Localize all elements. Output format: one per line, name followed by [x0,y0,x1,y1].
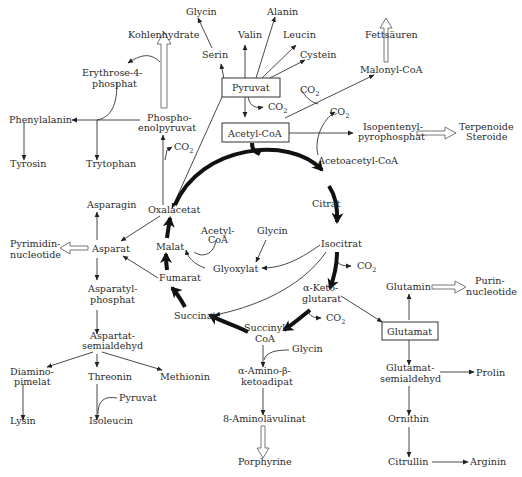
label-glutamat-semi-1: Glutamat- [386,362,434,373]
label-pyruvat: Pyruvat [232,82,270,93]
label-pyrimidin-1: Pyrimidin- [10,238,60,249]
label-methionin: Methionin [160,371,210,382]
label-isopentenyl-2: pyrophosphat [358,131,425,142]
label-valin: Valin [237,29,262,40]
label-asparatyl-1: Asparatyl- [87,283,138,294]
label-co2-isopent: CO2 [330,106,349,120]
label-isoleucin: Isoleucin [89,415,133,426]
label-glutamat: Glutamat [387,326,432,337]
label-tyrosin: Tyrosin [10,158,46,169]
metabolic-pathway-diagram: Glycin Alanin Valin Leucin Serin Cystein… [0,0,522,477]
label-pyrimidin-2: nucleotide [10,249,61,260]
label-asparagin: Asparagin [86,199,136,210]
label-asparatyl-2: phosphat [90,294,135,305]
label-glycin-low: Glycin [292,343,323,354]
label-threonin: Threonin [88,371,132,382]
label-pyruvat-small: Pyruvat [119,392,157,403]
label-leucin: Leucin [283,29,316,40]
label-asparat: Asparat [91,243,130,254]
label-acetyl-coa: Acetyl-CoA [227,128,283,139]
label-citrat: Citrat [312,198,341,209]
label-co2-isocitrat: CO2 [357,260,376,274]
label-glyoxylat: Glyoxylat [213,263,259,274]
label-succinyl-2: CoA [255,333,276,344]
label-erythrose-1: Erythrose-4- [82,67,143,78]
label-succinat: Succinat [174,310,216,321]
label-prolin: Prolin [476,367,505,378]
label-glycin-top: Glycin [186,6,217,17]
label-aspartat-semi-2: semialdehyd [82,340,143,351]
label-erythrose-2: phosphat [92,78,137,89]
label-aketo-2: glutarat [302,293,341,304]
label-succinyl-1: Succinyl- [244,322,288,333]
label-co2-malonyl: CO2 [300,84,319,98]
label-porphyrine: Porphyrine [238,456,292,467]
label-glutamin: Glutamin [386,281,431,292]
label-isocitrat: Isocitrat [321,238,362,249]
label-co2-aketo: CO2 [326,312,345,326]
label-glutamat-semi-2: semialdehyd [380,373,441,384]
label-oxalacetat: Oxalacetat [148,204,200,215]
label-malonyl-coa: Malonyl-CoA [360,64,423,75]
label-phenylalanin: Phenylalanin [9,114,72,125]
label-steroide: Steroide [466,131,508,142]
label-aketo-1: α-Keto- [303,282,338,293]
label-serin: Serin [202,49,228,60]
label-alanin: Alanin [266,6,298,17]
label-ornithin: Ornithin [388,413,429,424]
label-acetoacetyl-coa: Acetoacetyl-CoA [317,155,399,166]
label-trytophan: Trytophan [86,158,136,169]
label-glycin-mid: Glycin [257,225,288,236]
label-co2-pep: CO2 [174,141,193,155]
label-purin-2: nucleotide [466,286,517,297]
label-aminolaevulinat: 8-Aminolävulinat [223,413,306,424]
label-amino-keto-2: ketoadipat [241,376,293,387]
label-amino-keto-1: α-Amino-β- [238,365,291,376]
label-arginin: Arginin [469,456,506,467]
label-fumarat: Fumarat [159,272,201,283]
label-diamino-2: pimelat [14,376,51,387]
label-malat: Malat [156,241,184,252]
label-citrullin: Citrullin [388,456,428,467]
label-kohlenhydrate: Kohlenhydrate [128,29,200,40]
label-pep-2: enolpyruvat [138,122,196,133]
label-cystein: Cystein [300,49,336,60]
label-purin-1: Purin- [475,275,505,286]
label-co2-pyruvat: CO2 [268,101,287,115]
label-fettsaeuren: Fettsäuren [365,29,418,40]
label-acetyl-coa-gly-2: CoA [208,234,229,245]
label-lysin: Lysin [10,415,36,426]
